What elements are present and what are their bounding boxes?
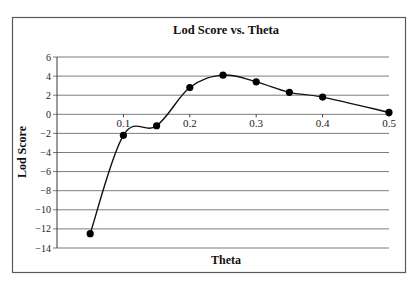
x-axis-title: Theta bbox=[211, 253, 241, 267]
data-point-marker bbox=[219, 72, 226, 79]
y-tick-label: −12 bbox=[35, 223, 51, 234]
data-point-marker bbox=[153, 122, 160, 129]
y-tick-label: −10 bbox=[35, 204, 51, 215]
x-tick-label: 0.3 bbox=[249, 117, 263, 129]
y-tick-label: −8 bbox=[40, 185, 51, 196]
data-point-marker bbox=[385, 109, 392, 116]
chart-frame bbox=[13, 18, 406, 273]
x-tick-label: 0.5 bbox=[382, 117, 396, 129]
y-tick-label: −6 bbox=[40, 166, 51, 177]
data-point-marker bbox=[120, 132, 127, 139]
x-tick-label: 0.4 bbox=[316, 117, 330, 129]
gridlines bbox=[53, 57, 389, 248]
chart-title: Lod Score vs. Theta bbox=[173, 23, 280, 37]
x-tick-label: 0.2 bbox=[183, 117, 197, 129]
y-tick-label: 4 bbox=[46, 71, 51, 82]
data-markers bbox=[87, 72, 393, 238]
y-tick-label: −14 bbox=[35, 243, 51, 254]
y-tick-label: −2 bbox=[40, 128, 51, 139]
y-tick-label: 2 bbox=[46, 90, 51, 101]
y-tick-label: 6 bbox=[46, 52, 51, 63]
data-point-marker bbox=[87, 230, 94, 237]
y-tick-label: 0 bbox=[46, 109, 51, 120]
lod-score-chart: Lod Score vs. Theta 6420−2−4−6−8−10−12−1… bbox=[0, 0, 416, 288]
y-tick-label: −4 bbox=[40, 147, 51, 158]
data-point-marker bbox=[319, 94, 326, 101]
y-axis-title: Lod Score bbox=[15, 125, 29, 178]
y-tick-labels: 6420−2−4−6−8−10−12−14 bbox=[35, 52, 51, 254]
x-tick-label: 0.1 bbox=[117, 117, 131, 129]
data-point-marker bbox=[253, 78, 260, 85]
data-point-marker bbox=[186, 84, 193, 91]
data-point-marker bbox=[286, 89, 293, 96]
